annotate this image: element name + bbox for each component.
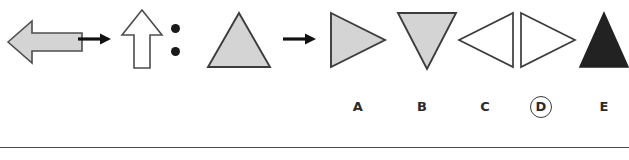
option-shape-b[interactable] — [396, 11, 458, 71]
relation-arrow-icon-2 — [283, 32, 317, 46]
stem-result-white-up-block-arrow — [119, 8, 165, 70]
option-label-b[interactable]: B — [409, 98, 435, 116]
option-label-d-selected[interactable]: D — [528, 98, 554, 116]
option-shape-c[interactable] — [457, 11, 515, 69]
stem-query-gray-up-triangle — [206, 11, 272, 69]
puzzle-sheet: A B C D E — [0, 0, 629, 160]
horizontal-divider — [0, 147, 629, 148]
option-label-e[interactable]: E — [591, 98, 617, 116]
option-shape-d[interactable] — [519, 11, 577, 69]
relation-arrow-icon-1 — [78, 32, 112, 46]
option-shape-e[interactable] — [578, 11, 629, 69]
colon-dot-lower — [171, 47, 180, 56]
stem-source-gray-left-block-arrow — [6, 18, 84, 66]
option-shape-a[interactable] — [329, 11, 387, 69]
option-label-c[interactable]: C — [472, 98, 498, 116]
option-label-a[interactable]: A — [345, 98, 371, 116]
colon-dot-upper — [171, 24, 180, 33]
analogy-colon-separator — [170, 24, 180, 56]
